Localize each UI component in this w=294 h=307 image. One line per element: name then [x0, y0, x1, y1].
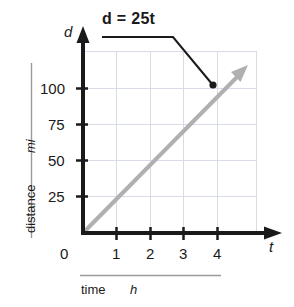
y-tick-label-75: 75	[48, 117, 65, 132]
x-axis	[81, 227, 282, 240]
y-axis	[77, 26, 90, 233]
gridlines-horizontal	[83, 52, 257, 197]
x-axis-unit-label: h	[130, 283, 137, 296]
y-tick-label-100: 100	[40, 81, 65, 96]
annotation-leader-line	[102, 37, 217, 89]
graph-figure: d = 25t d t 100 75 50 25 0 1 2 3 4 dista…	[0, 0, 294, 307]
x-tick-label-0: 0	[60, 246, 68, 261]
y-axis-unit-label: mi	[24, 139, 37, 153]
y-tick-label-25: 25	[48, 189, 65, 204]
y-tick-label-50: 50	[48, 153, 65, 168]
equation-annotation: d = 25t	[102, 11, 155, 27]
y-axis-variable-label: d	[64, 24, 72, 39]
x-axis-name-label: time	[81, 283, 106, 296]
y-axis-name-label: distance	[24, 185, 37, 233]
data-line-d-equals-25t	[83, 65, 248, 233]
x-tick-label-3: 3	[179, 246, 187, 261]
x-tick-label-1: 1	[112, 246, 120, 261]
x-axis-variable-label: t	[269, 239, 273, 254]
x-tick-label-4: 4	[213, 246, 221, 261]
x-tick-label-2: 2	[146, 246, 154, 261]
